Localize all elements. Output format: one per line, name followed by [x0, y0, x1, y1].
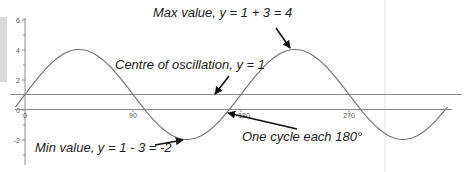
y-tick-label: 2 — [16, 77, 20, 84]
x-tick-label: 90 — [129, 112, 137, 119]
x-tick-label: 0 — [23, 112, 27, 119]
min-annotation: Min value, y = 1 - 3 = -2 — [35, 140, 172, 155]
side-bar — [0, 17, 7, 82]
y-tick-label: 4 — [16, 47, 20, 54]
y-tick-label: 6 — [16, 17, 20, 24]
sine-chart: 6 4 2 0 -2 0 90 180 270 Max value, y = 1… — [0, 0, 475, 172]
y-axis: 6 4 2 0 -2 — [14, 17, 25, 166]
x-tick-label: 270 — [343, 112, 355, 119]
centre-annotation: Centre of oscillation, y = 1 — [115, 57, 265, 72]
cycle-arrow — [228, 113, 297, 129]
y-tick-label: -2 — [14, 137, 20, 144]
centre-arrow — [215, 76, 229, 94]
max-arrow — [276, 28, 290, 48]
cycle-annotation: One cycle each 180° — [242, 129, 362, 144]
max-annotation: Max value, y = 1 + 3 = 4 — [153, 5, 292, 20]
